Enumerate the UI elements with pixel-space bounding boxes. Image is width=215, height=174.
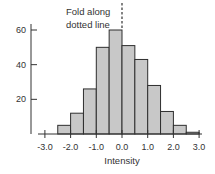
y-tick-label: 60 (16, 25, 26, 35)
annotation-line2: dotted line (66, 19, 110, 30)
histogram-bar (109, 30, 122, 134)
histogram-chart: 204060 -3.0-2.0-1.00.01.02.03.0 Fold alo… (0, 0, 215, 174)
annotation-line1: Fold along (66, 6, 110, 17)
x-tick-label: 0.0 (116, 142, 129, 152)
x-tick-label: 1.0 (141, 142, 154, 152)
histogram-bar (135, 59, 148, 134)
x-tick-label: -3.0 (37, 142, 53, 152)
histogram-bars (58, 30, 199, 134)
y-tick-label: 20 (16, 94, 26, 104)
histogram-bar (96, 47, 109, 134)
histogram-bar (161, 111, 174, 134)
x-tick-label: 3.0 (193, 142, 206, 152)
x-axis-title: Intensity (104, 155, 140, 166)
y-ticks: 204060 (16, 25, 37, 104)
histogram-bar (58, 125, 71, 134)
histogram-bar (71, 113, 84, 134)
histogram-bar (122, 46, 135, 134)
x-tick-label: -2.0 (63, 142, 79, 152)
histogram-bar (148, 85, 161, 134)
x-tick-label: -1.0 (89, 142, 105, 152)
x-tick-label: 2.0 (167, 142, 180, 152)
y-tick-label: 40 (16, 60, 26, 70)
histogram-bar (173, 125, 186, 134)
histogram-bar (83, 89, 96, 134)
